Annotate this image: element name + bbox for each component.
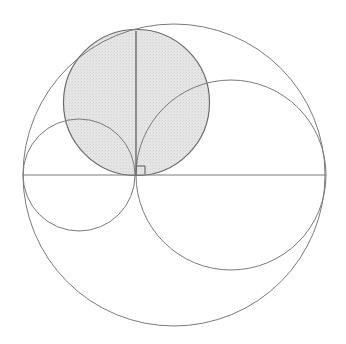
arbelos-diagram [0, 0, 346, 344]
